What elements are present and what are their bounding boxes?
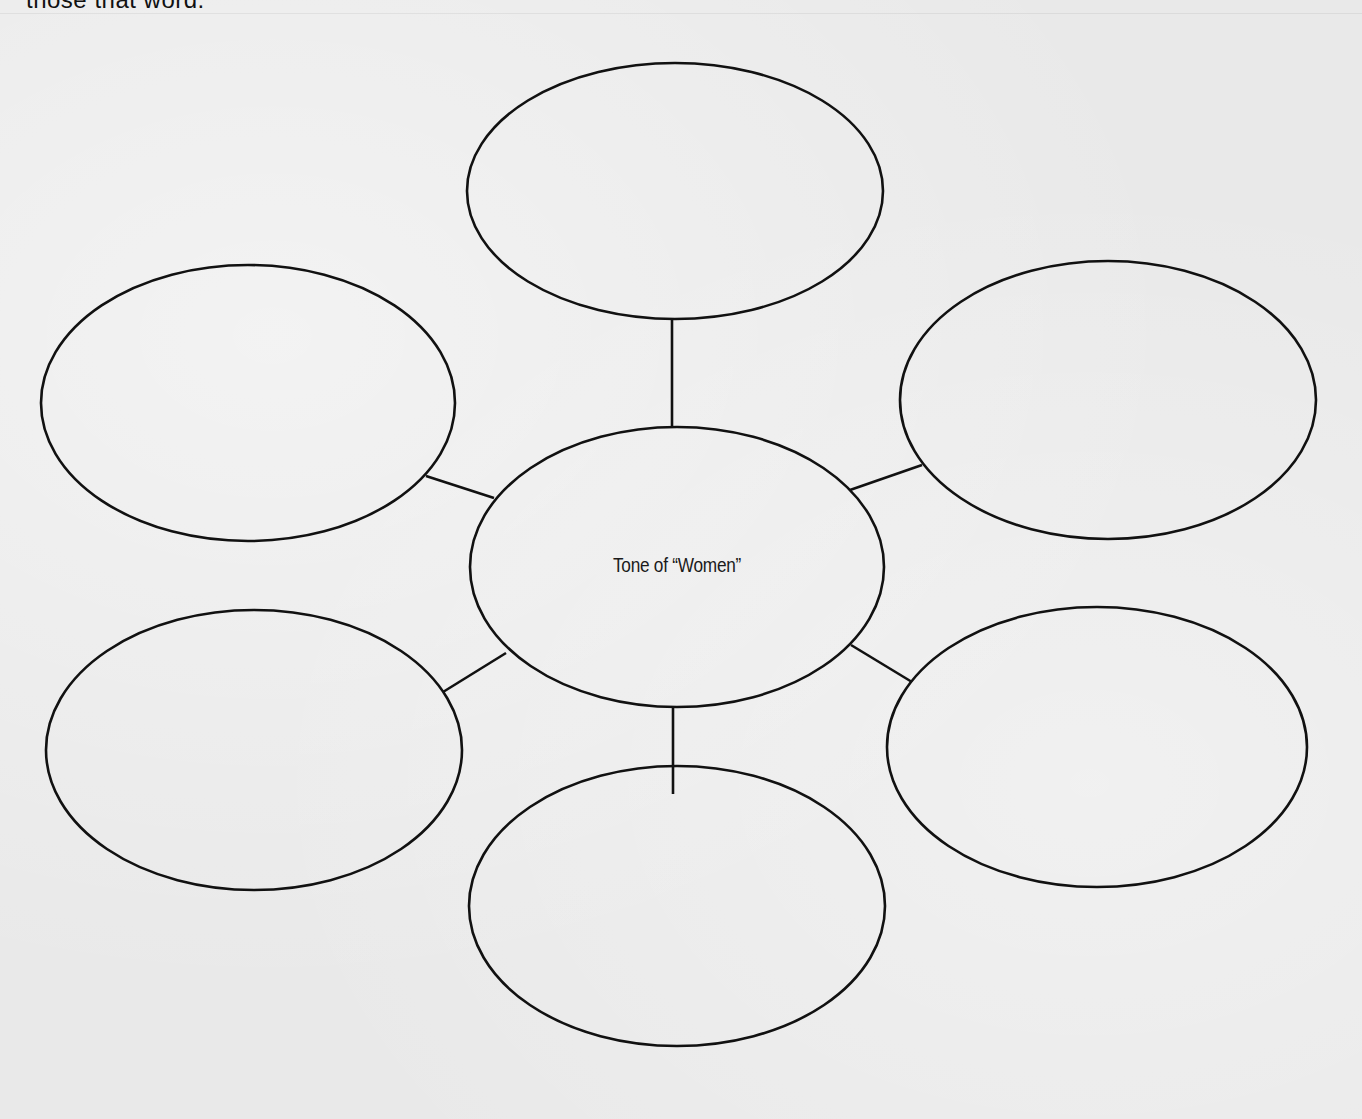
center-bubble-label: Tone of “Women” [513,553,841,577]
connector-bottom-left [443,653,506,692]
connector-bottom-right [851,645,912,682]
bubble-top-area [467,63,883,319]
bubble-bottom-area [469,766,885,1046]
bubble-bottom-right-area [887,607,1307,887]
bubble-bottom-left-area [46,610,462,890]
connector-top-right [850,465,922,490]
bubble-top-left-area [41,265,455,541]
connector-top-left [426,476,494,498]
bubble-top-right-area [900,261,1316,539]
